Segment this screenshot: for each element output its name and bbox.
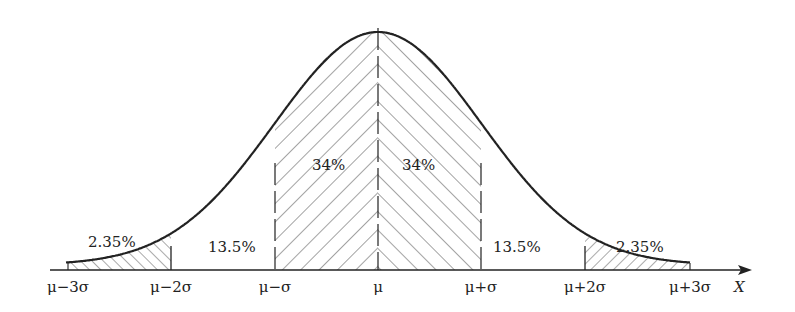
left-center-region: [275, 32, 378, 270]
tick-mean: μ: [373, 278, 383, 296]
right-center-region: [378, 32, 481, 270]
label-left-center: 34%: [312, 156, 345, 174]
label-right-center: 34%: [402, 156, 435, 174]
label-right-mid: 13.5%: [493, 238, 541, 256]
tick-plus-3sigma: μ+3σ: [669, 278, 711, 296]
normal-distribution-diagram: 2.35% 13.5% 34% 34% 13.5% 2.35% μ−3σ μ−2…: [0, 0, 795, 312]
tick-plus-sigma: μ+σ: [465, 278, 498, 296]
tick-minus-sigma: μ−σ: [259, 278, 292, 296]
label-left-mid: 13.5%: [208, 238, 256, 256]
tick-minus-3sigma: μ−3σ: [47, 278, 89, 296]
tick-plus-2sigma: μ+2σ: [564, 278, 606, 296]
x-axis-label: X: [733, 278, 746, 296]
label-left-tail: 2.35%: [88, 233, 136, 251]
tick-minus-2sigma: μ−2σ: [150, 278, 192, 296]
label-right-tail: 2.35%: [616, 238, 664, 256]
